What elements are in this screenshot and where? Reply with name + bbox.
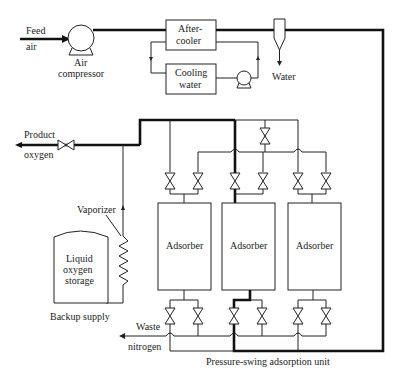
product-valve-icon xyxy=(58,140,74,150)
vaporizer-coil-icon xyxy=(106,236,128,303)
diagram-canvas: Feed air Air compressor After- cooler Co… xyxy=(0,0,402,381)
air-compressor-label: Air xyxy=(74,57,88,68)
top-equalization-valve-icon xyxy=(260,128,270,144)
waste-nitrogen-label: Waste xyxy=(136,321,161,332)
product-oxygen-label-2: oxygen xyxy=(24,149,53,160)
liquid-oxygen-label: Liquid xyxy=(66,253,93,264)
adsorber-2-label: Adsorber xyxy=(230,240,268,251)
cooling-water-label: Cooling xyxy=(175,67,207,78)
liquid-oxygen-label-3: storage xyxy=(65,275,94,286)
psa-unit-label: Pressure-swing adsorption unit xyxy=(206,356,330,367)
vaporizer-label: Vaporizer xyxy=(77,204,117,215)
bottom-valves xyxy=(165,308,331,324)
cooling-water-pump-icon xyxy=(237,71,251,88)
liquid-oxygen-label-2: oxygen xyxy=(63,264,92,275)
adsorber-3-label: Adsorber xyxy=(296,240,334,251)
feed-air-label: Feed xyxy=(26,25,45,36)
product-oxygen-label: Product xyxy=(24,129,55,140)
process-flow-diagram: Feed air Air compressor After- cooler Co… xyxy=(0,0,402,381)
air-compressor-label-2: compressor xyxy=(58,68,105,79)
aftercooler-label: After- xyxy=(178,23,202,34)
water-label: Water xyxy=(272,71,296,82)
aftercooler-label-2: cooler xyxy=(176,35,202,46)
feed-air-label-2: air xyxy=(26,41,37,52)
water-separator-icon xyxy=(274,19,285,66)
adsorber-1-label: Adsorber xyxy=(166,240,204,251)
cooling-water-label-2: water xyxy=(179,79,202,90)
backup-supply-label: Backup supply xyxy=(50,311,110,322)
top-valves xyxy=(165,173,331,189)
air-compressor-icon xyxy=(68,25,94,55)
waste-nitrogen-label-2: nitrogen xyxy=(128,341,161,352)
